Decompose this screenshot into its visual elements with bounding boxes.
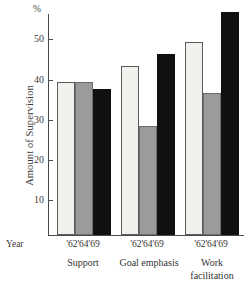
bar-work-facilitation-69 bbox=[221, 12, 239, 235]
y-tick-20 bbox=[48, 160, 53, 161]
x-axis-years-support: '62'64'69 bbox=[54, 239, 112, 249]
bar-work-facilitation-62 bbox=[185, 42, 203, 235]
group-label-goal-emphasis: Goal emphasis bbox=[114, 256, 184, 269]
bar-goal-emphasis-62 bbox=[121, 66, 139, 235]
y-tick-label-50: 50 bbox=[22, 33, 44, 44]
group-label-support: Support bbox=[50, 256, 116, 269]
bar-support-64 bbox=[75, 82, 93, 235]
y-tick-30 bbox=[48, 120, 53, 121]
y-tick-label-30: 30 bbox=[22, 114, 44, 125]
group-label-work-facilitation: Work facilitation bbox=[178, 256, 246, 282]
y-axis-unit-label: % bbox=[33, 4, 41, 14]
bar-chart: Amount of Supervision % 50 40 30 20 10 Y… bbox=[0, 0, 248, 287]
y-tick-label-10: 10 bbox=[22, 194, 44, 205]
bar-goal-emphasis-64 bbox=[139, 126, 157, 235]
y-axis-line bbox=[48, 14, 49, 236]
y-tick-10 bbox=[48, 200, 53, 201]
y-tick-label-20: 20 bbox=[22, 154, 44, 165]
y-tick-label-40: 40 bbox=[22, 74, 44, 85]
bar-support-62 bbox=[57, 82, 75, 235]
x-axis-line bbox=[48, 235, 244, 236]
bar-work-facilitation-64 bbox=[203, 93, 221, 235]
bar-goal-emphasis-69 bbox=[157, 54, 175, 235]
y-tick-40 bbox=[48, 80, 53, 81]
bar-support-69 bbox=[93, 89, 111, 235]
x-axis-year-caption: Year bbox=[6, 239, 24, 249]
y-tick-50 bbox=[48, 39, 53, 40]
x-axis-years-work-facilitation: '62'64'69 bbox=[182, 239, 240, 249]
x-axis-years-goal-emphasis: '62'64'69 bbox=[118, 239, 176, 249]
